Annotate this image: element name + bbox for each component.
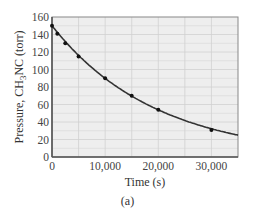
- y-tick-label: 120: [32, 46, 50, 58]
- data-point: [63, 41, 67, 45]
- x-axis-label: Time (s): [125, 175, 166, 189]
- y-tick-label: 40: [38, 116, 50, 128]
- y-label-pre: Pressure, CH: [12, 80, 26, 144]
- data-point: [156, 108, 160, 112]
- x-tick-label: 0: [49, 160, 55, 172]
- y-tick-label: 80: [38, 81, 50, 93]
- x-axis-ticks: 010,00020,00030,000: [49, 160, 227, 173]
- y-tick-label: 60: [38, 99, 50, 111]
- data-point: [77, 54, 81, 58]
- y-tick-label: 140: [32, 29, 50, 41]
- x-tick-label: 20,000: [142, 160, 174, 173]
- data-point: [55, 32, 59, 36]
- x-tick-label: 30,000: [196, 160, 228, 173]
- pressure-vs-time-chart: 020406080100120140160 010,00020,00030,00…: [0, 0, 255, 190]
- data-point: [50, 24, 54, 28]
- x-tick-label: 10,000: [89, 160, 121, 173]
- data-point: [130, 94, 134, 98]
- y-axis-ticks: 020406080100120140160: [32, 11, 50, 163]
- data-point: [209, 128, 213, 132]
- figure-caption: (a): [0, 194, 255, 209]
- y-tick-label: 100: [32, 64, 50, 76]
- data-point: [103, 76, 107, 80]
- y-axis-label: Pressure, CH3NC (torr): [12, 31, 28, 144]
- y-tick-label: 160: [32, 11, 50, 23]
- y-label-post: NC (torr): [12, 31, 26, 76]
- y-tick-label: 20: [38, 134, 50, 146]
